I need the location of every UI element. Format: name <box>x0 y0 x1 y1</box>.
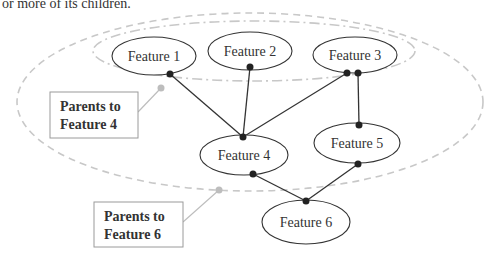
caption-text: or more of its children. <box>2 0 131 11</box>
edge-f3-f5 <box>358 73 359 125</box>
node-feature-4[interactable]: Feature 4 <box>200 135 288 175</box>
dot-f4-out <box>250 171 257 178</box>
node-feature-6[interactable]: Feature 6 <box>262 200 350 244</box>
node-label: Feature 5 <box>331 136 383 151</box>
edge-f1-f4 <box>170 74 243 137</box>
node-label: Feature 1 <box>128 49 180 64</box>
callout-leader-f4 <box>138 88 161 112</box>
callout-parents-f4: Parents to Feature 4 <box>50 85 165 139</box>
node-label: Feature 6 <box>280 215 332 230</box>
node-label: Feature 2 <box>224 44 276 59</box>
callout-leader-f6 <box>183 190 219 222</box>
callout-parents-f6: Parents to Feature 6 <box>94 187 223 248</box>
dot-f1-out <box>167 71 174 78</box>
callout-dot-f6 <box>216 187 223 194</box>
node-label: Feature 4 <box>218 148 270 163</box>
node-feature-3[interactable]: Feature 3 <box>313 37 397 73</box>
edge-f2-f4 <box>243 67 250 137</box>
dot-f5-in <box>356 122 363 129</box>
dot-f6-in <box>303 198 310 205</box>
label-line1: Parents to <box>60 99 121 114</box>
node-label: Feature 3 <box>329 48 381 63</box>
label-line1: Parents to <box>104 209 165 224</box>
dot-f4-in <box>240 134 247 141</box>
dot-f3-out-b <box>355 70 362 77</box>
dot-f3-out-a <box>344 70 351 77</box>
feature-dependency-diagram: or more of its children. Feature 1 Featu… <box>0 0 495 258</box>
node-feature-1[interactable]: Feature 1 <box>112 37 196 75</box>
dot-f5-out <box>355 161 362 168</box>
label-line2: Feature 6 <box>104 227 161 242</box>
edge-f4-f6 <box>253 174 306 201</box>
callout-dot-f4 <box>158 85 165 92</box>
node-feature-5[interactable]: Feature 5 <box>314 123 400 163</box>
label-line2: Feature 4 <box>60 117 117 132</box>
edge-f5-f6 <box>306 164 358 201</box>
dot-f2-out <box>247 64 254 71</box>
